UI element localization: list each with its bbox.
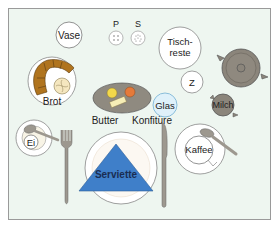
pepper-shaker: P — [109, 19, 123, 45]
leftovers-plate: Tisch- reste — [159, 27, 201, 69]
bread-roll — [54, 78, 70, 94]
sugar-bowl: Z — [181, 71, 203, 93]
glass: Glas — [153, 93, 177, 117]
leftovers-label-2: reste — [169, 47, 190, 58]
salt-shaker: S — [131, 19, 145, 45]
sugar-label: Z — [189, 77, 195, 88]
bread-plate: Brot — [28, 57, 76, 107]
pepper-label: P — [113, 19, 119, 29]
milk-label: Milch — [212, 100, 233, 110]
table-setting-diagram: Vase P S Tisch- reste Z — [0, 0, 277, 228]
egg-plate: Ei — [16, 120, 58, 156]
coffee-cup: Kaffee — [175, 124, 236, 174]
butter-label: Butter — [92, 115, 119, 126]
bread-label: Brot — [43, 96, 62, 107]
teapot-icon — [217, 49, 268, 87]
coffee-label: Kaffee — [185, 144, 212, 155]
leftovers-label: Tisch- — [167, 36, 193, 47]
milk-jug: Milch — [210, 94, 238, 117]
vase-circle: Vase — [56, 22, 82, 48]
vase-label: Vase — [58, 30, 80, 41]
glass-label: Glas — [155, 100, 175, 111]
main-plate: Serviette — [79, 132, 157, 204]
salt-label: S — [135, 19, 141, 29]
egg-label: Ei — [27, 137, 35, 148]
knife-icon — [162, 123, 167, 207]
napkin-label: Serviette — [95, 169, 138, 180]
fork-icon — [61, 130, 72, 204]
